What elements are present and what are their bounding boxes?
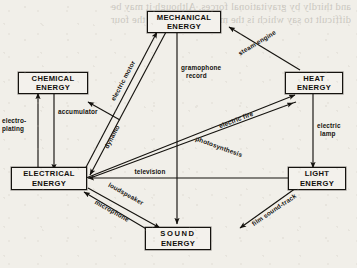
node-sound-line1: SOUND [160, 229, 195, 238]
edge-label-gramophone-record: gramophone record [181, 64, 233, 79]
node-mechanical-line1: MECHANICAL [157, 13, 212, 22]
edge-electric-motor [83, 32, 157, 173]
edge-label-electric-lamp-line1: electric [317, 122, 353, 130]
node-heat-line1: HEAT [303, 74, 325, 83]
node-light-line1: LIGHT [305, 169, 330, 178]
edge-label-television: television [127, 168, 173, 175]
node-mechanical-line2: ENERGY [167, 22, 201, 31]
node-heat[interactable]: HEAT ENERGY [285, 72, 343, 94]
node-sound-line2: ENERGY [161, 239, 195, 248]
edge-photosynthesis-tail [293, 102, 296, 103]
edge-label-accumulator: accumulator [58, 108, 106, 115]
node-chemical-line2: ENERGY [36, 83, 70, 92]
node-light-line2: ENERGY [300, 179, 334, 188]
node-mechanical[interactable]: MECHANICAL ENERGY [147, 11, 221, 33]
edge-label-gramophone-record-line1: gramophone [181, 64, 233, 72]
edge-dynamo [90, 32, 166, 175]
node-chemical-line1: CHEMICAL [32, 74, 75, 83]
edge-label-gramophone-record-line2: record [181, 72, 233, 80]
node-electrical-line2: ENERGY [32, 179, 66, 188]
node-electrical-line1: ELECTRICAL [23, 169, 75, 178]
edge-label-electro-plating: electro- plating [2, 117, 36, 132]
node-electrical[interactable]: ELECTRICAL ENERGY [11, 167, 87, 190]
node-sound[interactable]: SOUND ENERGY [145, 227, 211, 250]
node-chemical[interactable]: CHEMICAL ENERGY [18, 72, 88, 94]
edge-label-electric-lamp-line2: lamp [317, 130, 353, 138]
node-light[interactable]: LIGHT ENERGY [288, 167, 346, 190]
edge-label-electro-plating-line1: electro- [2, 117, 36, 125]
edge-label-electric-lamp: electric lamp [317, 122, 353, 137]
edge-label-electro-plating-line2: plating [2, 125, 36, 133]
diagram-canvas: and thirdly by gravitational forces. Alt… [0, 0, 357, 268]
node-heat-line2: ENERGY [297, 83, 331, 92]
